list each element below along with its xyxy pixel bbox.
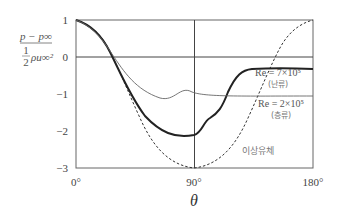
pressure-coefficient-chart: 1 0 −1 −2 −3 0° 90° 180° θ p − p∞ 1 2 ρu…	[0, 0, 338, 216]
y-tick-neg3: −3	[56, 162, 68, 174]
laminar-sublabel: (층류)	[271, 111, 291, 120]
y-tick-1: 1	[63, 14, 69, 26]
x-tick-180: 180°	[303, 176, 324, 188]
laminar-label: Re = 2×10⁵	[258, 98, 304, 109]
turbulent-label: Re = 7×10⁵	[255, 67, 301, 78]
x-tick-0: 0°	[71, 176, 81, 188]
y-label-half-num: 1	[23, 44, 29, 56]
ideal-fluid-label: 이상유체	[242, 146, 274, 156]
y-tick-neg1: −1	[56, 88, 68, 100]
y-tick-0: 0	[63, 51, 69, 63]
y-axis-label: p − p∞ 1 2 ρu∞²	[19, 30, 54, 68]
x-tick-90: 90°	[186, 176, 201, 188]
y-tick-neg2: −2	[56, 125, 68, 137]
y-label-half-den: 2	[23, 56, 29, 68]
y-label-numerator: p − p∞	[19, 30, 52, 42]
y-label-denominator: ρu∞²	[30, 51, 54, 63]
turbulent-sublabel: (난류)	[268, 80, 288, 89]
x-axis-label: θ	[190, 192, 198, 209]
